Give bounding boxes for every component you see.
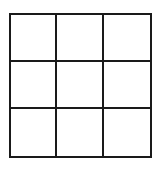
grid-cell-r1-c1 xyxy=(11,15,57,62)
grid-cell-r1-c3 xyxy=(104,15,150,62)
grid-cell-r3-c2 xyxy=(57,109,103,156)
grid-cell-r2-c2 xyxy=(57,62,103,109)
grid-cell-r2-c3 xyxy=(104,62,150,109)
three-by-three-grid xyxy=(9,13,152,158)
grid-cell-r1-c2 xyxy=(57,15,103,62)
grid-cell-r2-c1 xyxy=(11,62,57,109)
grid-cell-r3-c1 xyxy=(11,109,57,156)
grid-cell-r3-c3 xyxy=(104,109,150,156)
